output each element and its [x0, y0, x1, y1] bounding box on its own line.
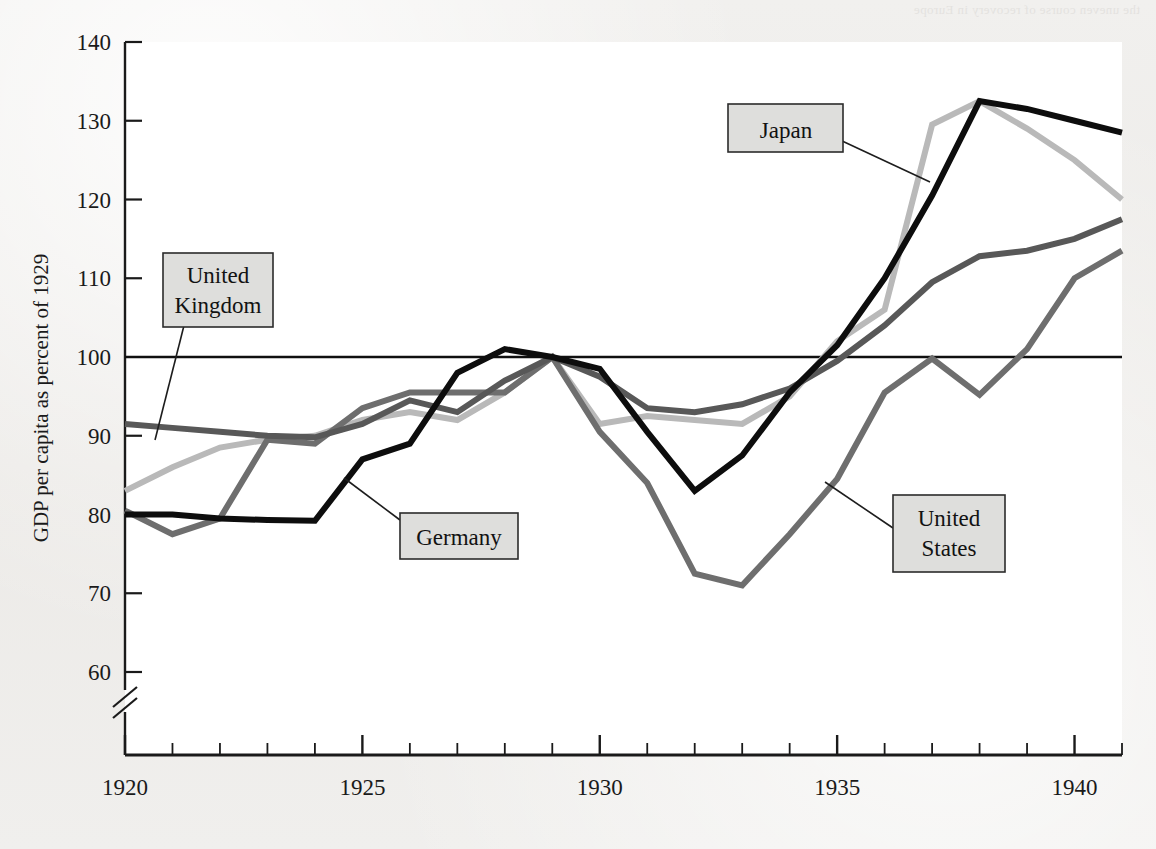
- x-tick-label-1935: 1935: [814, 775, 860, 800]
- callout-germany[interactable]: Germany: [400, 513, 518, 559]
- x-tick-label-1920: 1920: [102, 775, 148, 800]
- callout-united-kingdom[interactable]: United Kingdom: [163, 253, 273, 327]
- page-canvas: the uneven course of recovery in Europe: [0, 0, 1156, 849]
- callout-united-states[interactable]: United States: [893, 495, 1005, 572]
- callout-japan-label: Japan: [760, 118, 813, 143]
- callout-germany-label: Germany: [416, 525, 502, 550]
- y-tick-label-120: 120: [77, 188, 112, 213]
- callout-united-kingdom-line1: United: [187, 263, 250, 288]
- y-axis-title: GDP per capita as percent of 1929: [29, 254, 53, 542]
- x-tick-label-1925: 1925: [339, 775, 385, 800]
- chart-svg: 60708090100110120130140 1920192519301935…: [0, 0, 1156, 849]
- callout-united-kingdom-line2: Kingdom: [175, 293, 262, 318]
- x-tick-labels: 19201925193019351940: [102, 775, 1098, 800]
- y-tick-label-100: 100: [77, 345, 112, 370]
- callout-united-states-line2: States: [922, 536, 977, 561]
- x-tick-label-1930: 1930: [577, 775, 623, 800]
- y-tick-label-60: 60: [88, 660, 111, 685]
- y-tick-label-110: 110: [77, 266, 111, 291]
- y-tick-label-80: 80: [88, 503, 111, 528]
- line-chart-figure: 60708090100110120130140 1920192519301935…: [0, 0, 1156, 849]
- y-tick-label-70: 70: [88, 581, 111, 606]
- y-tick-label-90: 90: [88, 424, 111, 449]
- x-tick-label-1940: 1940: [1052, 775, 1098, 800]
- y-tick-labels: 60708090100110120130140: [77, 30, 112, 685]
- y-tick-label-130: 130: [77, 109, 112, 134]
- callout-japan[interactable]: Japan: [728, 104, 843, 152]
- callout-united-states-line1: United: [918, 506, 981, 531]
- y-tick-label-140: 140: [77, 30, 112, 55]
